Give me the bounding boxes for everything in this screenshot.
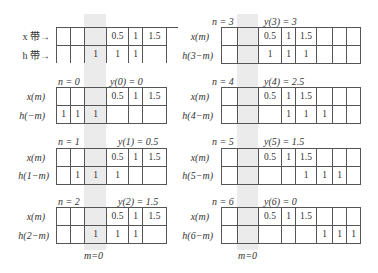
cell bbox=[222, 208, 238, 226]
cell bbox=[71, 208, 85, 226]
cell bbox=[317, 28, 333, 46]
x-row-label: x(m) bbox=[0, 91, 45, 103]
cell bbox=[238, 208, 259, 226]
cell bbox=[57, 226, 71, 244]
cell: 1.5 bbox=[296, 149, 317, 167]
h-row-label: h(6−m) bbox=[160, 230, 213, 242]
m0-marker-right: m=0 bbox=[238, 250, 257, 262]
cell bbox=[85, 88, 107, 106]
cell bbox=[107, 106, 129, 124]
cell: 1 bbox=[107, 226, 129, 244]
cell bbox=[222, 149, 238, 167]
cell bbox=[238, 46, 259, 64]
cell: 1 bbox=[296, 106, 317, 124]
m0-marker-left: m=0 bbox=[84, 250, 103, 262]
cell: 1 bbox=[71, 167, 85, 185]
cell bbox=[57, 149, 71, 167]
cell bbox=[282, 167, 296, 185]
cell bbox=[282, 226, 296, 244]
h-row-label: h(−m) bbox=[0, 110, 45, 122]
cell bbox=[317, 149, 333, 167]
n-label: n = 5 bbox=[212, 136, 234, 148]
cell: 1 bbox=[347, 226, 361, 244]
n-label: n = 1 bbox=[58, 136, 80, 148]
cell bbox=[317, 208, 333, 226]
cell bbox=[222, 46, 238, 64]
h-strip-label: h 带→ bbox=[0, 50, 50, 62]
h-row-label: h(1−m) bbox=[0, 170, 49, 182]
cell bbox=[222, 167, 238, 185]
cell bbox=[238, 167, 259, 185]
h-row-label: h(5−m) bbox=[160, 170, 213, 182]
y-value-label: y(1) = 0.5 bbox=[118, 136, 158, 148]
cell bbox=[222, 226, 238, 244]
x-row: 0.5 1 1.5 bbox=[222, 28, 361, 46]
x-strip-label: x 带→ bbox=[0, 31, 50, 43]
x-row: 0.5 1 1.5 bbox=[222, 88, 361, 106]
cell: 1 bbox=[282, 149, 296, 167]
cell: 1 bbox=[107, 46, 129, 64]
x-row: 0.5 1 1.5 bbox=[57, 149, 167, 167]
convolution-table-n3: 0.5 1 1.5 1 1 1 bbox=[221, 27, 361, 64]
cell: 1.5 bbox=[296, 28, 317, 46]
cell bbox=[238, 88, 259, 106]
x-row: 0.5 1 1.5 bbox=[222, 208, 361, 226]
cell: 1 bbox=[282, 106, 296, 124]
h-row: 1 1 1 bbox=[222, 226, 361, 244]
x-row: 0.5 1 1.5 bbox=[222, 149, 361, 167]
cell bbox=[238, 28, 259, 46]
cell: 1 bbox=[259, 46, 282, 64]
cell bbox=[347, 208, 361, 226]
x-row-label: x(m) bbox=[160, 211, 209, 223]
cell: 0.5 bbox=[259, 28, 282, 46]
cell bbox=[71, 28, 85, 46]
cell bbox=[85, 28, 107, 46]
convolution-table-n5: 0.5 1 1.5 1 1 1 bbox=[221, 148, 361, 185]
x-row-label: x(m) bbox=[160, 91, 209, 103]
cell: 1 bbox=[296, 46, 317, 64]
cell: 0.5 bbox=[107, 28, 129, 46]
h-row: 1 1 1 bbox=[57, 226, 167, 244]
h-row-label: h(3−m) bbox=[160, 50, 213, 62]
cell bbox=[347, 167, 361, 185]
cell: 1 bbox=[71, 106, 85, 124]
cell: 1 bbox=[282, 28, 296, 46]
cell bbox=[333, 208, 347, 226]
cell: 1 bbox=[107, 167, 129, 185]
cell bbox=[129, 167, 143, 185]
cell bbox=[333, 106, 347, 124]
cell: 0.5 bbox=[107, 88, 129, 106]
cell: 1 bbox=[85, 226, 107, 244]
convolution-table-n1: 0.5 1 1.5 1 1 1 bbox=[56, 148, 167, 185]
cell bbox=[347, 28, 361, 46]
h-strip-row: 1 1 1 bbox=[57, 46, 167, 64]
cell: 0.5 bbox=[259, 88, 282, 106]
x-row-label: x(m) bbox=[160, 31, 209, 43]
h-row: 1 1 1 bbox=[222, 106, 361, 124]
cell: 1 bbox=[333, 167, 347, 185]
cell: 1.5 bbox=[296, 208, 317, 226]
cell bbox=[333, 46, 347, 64]
h-row-label: h(2−m) bbox=[0, 230, 49, 242]
x-row: 0.5 1 1.5 bbox=[57, 208, 167, 226]
cell bbox=[333, 28, 347, 46]
cell: 0.5 bbox=[107, 208, 129, 226]
cell bbox=[71, 46, 85, 64]
cell: 1 bbox=[129, 208, 143, 226]
cell bbox=[71, 88, 85, 106]
cell bbox=[222, 106, 238, 124]
convolution-table-n0: 0.5 1 1.5 1 1 1 bbox=[56, 87, 167, 124]
cell bbox=[71, 149, 85, 167]
cell: 1 bbox=[317, 226, 333, 244]
cell: 1 bbox=[129, 46, 143, 64]
cell: 0.5 bbox=[259, 208, 282, 226]
y-value-label: y(5) = 1.5 bbox=[264, 136, 304, 148]
cell: 0.5 bbox=[107, 149, 129, 167]
cell bbox=[57, 208, 71, 226]
cell: 1 bbox=[85, 106, 107, 124]
cell bbox=[347, 149, 361, 167]
convolution-table-n6: 0.5 1 1.5 1 1 1 bbox=[221, 207, 361, 244]
h-row-label: h(4−m) bbox=[160, 110, 213, 122]
cell bbox=[317, 46, 333, 64]
cell: 1 bbox=[282, 88, 296, 106]
